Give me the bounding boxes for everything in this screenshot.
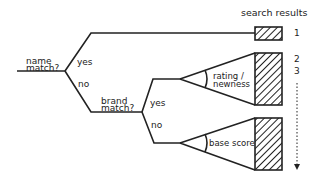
rank-3: 3 bbox=[294, 67, 300, 75]
name-match-label-2: match? bbox=[26, 64, 59, 72]
rating-newness-label-2: newness bbox=[213, 80, 250, 88]
rank-2: 2 bbox=[294, 55, 300, 63]
name-no-label: no bbox=[78, 80, 89, 88]
brand-match-label-2: match? bbox=[101, 104, 134, 112]
brand-yes-label: yes bbox=[150, 99, 166, 107]
rank-1: 1 bbox=[294, 29, 300, 37]
search-results-title: search results bbox=[241, 9, 307, 17]
brand-no-label: no bbox=[151, 121, 162, 129]
result-box-3 bbox=[255, 118, 282, 170]
result-box-2 bbox=[255, 53, 282, 105]
name-yes-edge bbox=[65, 33, 255, 71]
base-score-label: base score bbox=[209, 139, 255, 147]
result-box-1 bbox=[255, 27, 282, 40]
name-yes-label: yes bbox=[77, 58, 93, 66]
decision-tree-diagram bbox=[0, 0, 320, 179]
arrow-head-icon bbox=[294, 164, 300, 170]
